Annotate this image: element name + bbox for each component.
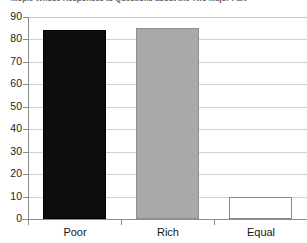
- y-axis-tick-label: 20: [0, 168, 22, 178]
- chart-title: ...ople Whose Responses to Questions abo…: [11, 0, 307, 3]
- x-axis-tick-mark: [214, 220, 215, 225]
- y-axis-tick-label: 80: [0, 33, 22, 43]
- bar-equal: [229, 197, 292, 219]
- bar-poor: [43, 30, 106, 219]
- y-axis-spine: [28, 17, 29, 220]
- y-axis-tick-label: 10: [0, 191, 22, 201]
- gridline: [28, 17, 307, 18]
- y-axis-tick-label: 40: [0, 123, 22, 133]
- bar-rich: [136, 28, 199, 219]
- x-axis-label-poor: Poor: [35, 226, 115, 239]
- x-axis-line: [21, 219, 307, 220]
- y-axis-tick-label: 70: [0, 56, 22, 66]
- plot-area: [28, 17, 307, 219]
- y-axis-tick-label: 90: [0, 11, 22, 21]
- x-axis-tick-mark: [28, 220, 29, 225]
- y-axis-tick-label: 50: [0, 101, 22, 111]
- y-axis-tick-label: 60: [0, 78, 22, 88]
- y-axis-tick-label: 0: [0, 213, 22, 223]
- x-axis-label-equal: Equal: [221, 226, 301, 239]
- bar-chart: ...ople Whose Responses to Questions abo…: [0, 0, 307, 243]
- x-axis-tick-mark: [121, 220, 122, 225]
- y-axis-tick-label: 30: [0, 146, 22, 156]
- x-axis-label-rich: Rich: [128, 226, 208, 239]
